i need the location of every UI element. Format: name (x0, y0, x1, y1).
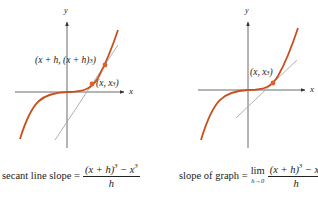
right-point (271, 81, 276, 86)
left-x-label: x (129, 86, 133, 96)
limit-operator: limh→0 (251, 166, 265, 184)
right-x-label: x (310, 84, 314, 94)
left-fraction: (x + h)3 − x3 h (83, 162, 140, 189)
left-point-upper (103, 63, 108, 68)
right-cubic-curve (201, 28, 298, 140)
left-y-label: y (64, 6, 68, 15)
left-upper-point-label: (x + h, (x + h)3) (35, 55, 96, 65)
right-fraction: (x + h)3 − x3 h (268, 162, 318, 189)
left-point-lower (90, 82, 95, 87)
right-graph (198, 22, 305, 148)
right-caption: slope of graph = limh→0 (x + h)3 − x3 h (179, 162, 318, 189)
right-point-label: (x, x3) (250, 67, 273, 77)
left-lower-point-label: (x, x3) (96, 78, 119, 88)
left-caption: secant line slope = (x + h)3 − x3 h (2, 162, 140, 189)
right-y-label: y (245, 6, 249, 15)
